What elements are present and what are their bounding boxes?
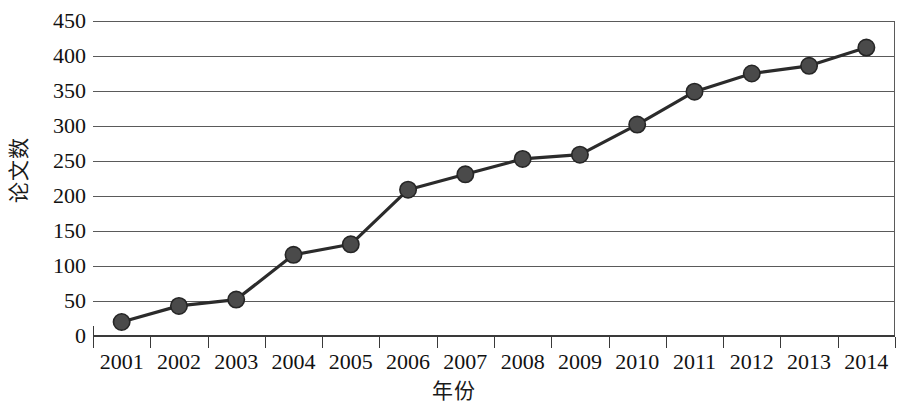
series-markers: [113, 39, 874, 330]
series-marker-point: [400, 182, 416, 198]
series-marker-point: [285, 247, 301, 263]
series-marker-point: [858, 39, 874, 55]
series-marker-point: [629, 116, 645, 132]
series-marker-point: [686, 84, 702, 100]
series-layer: [0, 0, 907, 401]
line-chart: 论文数 050100150200250300350400450 20012002…: [0, 0, 907, 401]
series-marker-point: [514, 151, 530, 167]
series-marker-point: [801, 58, 817, 74]
series-marker-point: [744, 65, 760, 81]
series-marker-point: [343, 236, 359, 252]
series-marker-point: [228, 291, 244, 307]
series-marker-point: [171, 298, 187, 314]
series-marker-point: [572, 147, 588, 163]
series-line-papers: [122, 48, 867, 322]
series-marker-point: [113, 314, 129, 330]
series-marker-point: [457, 166, 473, 182]
